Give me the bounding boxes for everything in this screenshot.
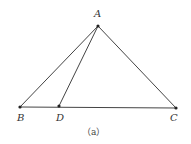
label-d: D xyxy=(55,112,64,123)
point-a xyxy=(96,24,99,27)
segment-bc xyxy=(20,107,176,108)
triangle-diagram: A B D C （a） xyxy=(0,0,191,144)
segment-ad xyxy=(59,26,98,106)
label-c: C xyxy=(170,112,178,123)
point-c xyxy=(174,106,177,109)
point-d xyxy=(57,104,60,107)
label-a: A xyxy=(93,8,101,19)
segment-ac xyxy=(98,26,176,108)
point-b xyxy=(18,105,21,108)
segment-ab xyxy=(20,26,98,107)
label-b: B xyxy=(16,112,24,123)
caption: （a） xyxy=(82,127,105,137)
